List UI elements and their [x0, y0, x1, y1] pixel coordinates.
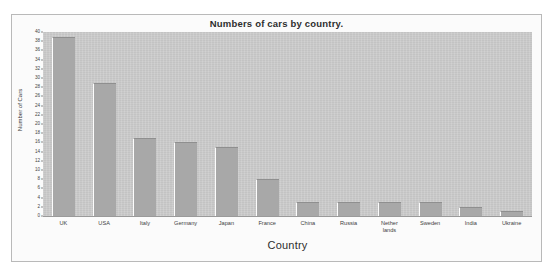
y-tick-label: 0 [38, 214, 40, 219]
bar [256, 179, 279, 216]
x-axis-title: Country [43, 239, 532, 251]
bar [296, 202, 319, 216]
bar [215, 147, 238, 216]
y-tick-label: 34 [35, 57, 40, 62]
y-tick-label: 10 [35, 168, 40, 173]
y-tick-label: 36 [35, 48, 40, 53]
y-tick-label: 4 [38, 195, 40, 200]
bar [378, 202, 401, 216]
bar [174, 142, 197, 216]
bar-slot [206, 32, 247, 216]
y-tick-label: 18 [35, 131, 40, 136]
bar-slot [165, 32, 206, 216]
y-tick-label: 22 [35, 113, 40, 118]
bar-slot [247, 32, 288, 216]
y-tick-label: 40 [35, 30, 40, 35]
x-axis-line [43, 216, 532, 217]
bar-slot [84, 32, 125, 216]
bar-series [43, 32, 532, 216]
bar-slot [288, 32, 329, 216]
y-tick-label: 26 [35, 94, 40, 99]
y-tick-label: 2 [38, 205, 40, 210]
y-tick-label: 8 [38, 177, 40, 182]
plot-area [43, 32, 532, 216]
y-tick-label: 24 [35, 103, 40, 108]
bar-slot [125, 32, 166, 216]
bar-slot [491, 32, 532, 216]
bar [459, 207, 482, 216]
y-tick-label: 16 [35, 140, 40, 145]
bar-slot [410, 32, 451, 216]
chart-figure: Numbers of cars by country. Number of Ca… [11, 14, 542, 262]
y-tick-label: 6 [38, 186, 40, 191]
bar [133, 138, 156, 216]
bar-slot [451, 32, 492, 216]
bar [419, 202, 442, 216]
bar [337, 202, 360, 216]
y-tick-label: 28 [35, 85, 40, 90]
y-axis-ticks: 0246810121416182022242628303234363840 [12, 32, 43, 216]
bar [93, 83, 116, 216]
bar-slot [43, 32, 84, 216]
y-tick-label: 38 [35, 39, 40, 44]
y-tick-label: 20 [35, 122, 40, 127]
bar-slot [369, 32, 410, 216]
y-tick-label: 30 [35, 76, 40, 81]
bar [52, 37, 75, 216]
bar-slot [328, 32, 369, 216]
y-tick-label: 32 [35, 67, 40, 72]
chart-title: Numbers of cars by country. [12, 18, 541, 29]
y-tick-label: 12 [35, 159, 40, 164]
y-tick-label: 14 [35, 149, 40, 154]
